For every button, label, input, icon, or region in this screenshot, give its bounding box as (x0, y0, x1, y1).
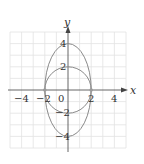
point-neg2-0 (43, 88, 47, 92)
x-tick-neg4: −4 (14, 93, 29, 104)
x-tick-pos4: 4 (111, 93, 117, 104)
x-tick-pos2: 2 (88, 93, 94, 104)
x-tick-neg2: −2 (36, 93, 51, 104)
y-tick-neg2: −2 (55, 107, 70, 118)
y-tick-pos2: 2 (60, 61, 66, 72)
y-tick-neg4: −4 (55, 131, 70, 142)
origin-label: 0 (58, 93, 64, 104)
x-axis-label: x (130, 84, 137, 97)
coordinate-plane: x y −4 −2 0 2 4 4 2 −2 −4 (0, 0, 144, 164)
x-axis-arrow-icon (121, 88, 128, 93)
point-pos2-0 (89, 88, 93, 92)
y-tick-pos4: 4 (60, 38, 66, 49)
y-axis-label: y (63, 16, 71, 29)
